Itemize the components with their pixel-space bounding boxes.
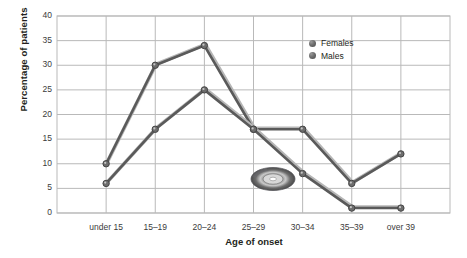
x-tick-label: 20–24 — [193, 222, 217, 232]
legend-label-males: Males — [321, 50, 344, 63]
x-tick-label: under 15 — [89, 222, 123, 232]
y-tick-label: 15 — [26, 134, 52, 143]
y-tick-label: 5 — [26, 183, 52, 192]
legend-item-males: Males — [309, 50, 354, 63]
chart-legend: Females Males — [309, 37, 354, 62]
y-tick-label: 10 — [26, 159, 52, 168]
x-tick-label: 25–29 — [242, 222, 266, 232]
legend-label-females: Females — [321, 37, 354, 50]
legend-item-females: Females — [309, 37, 354, 50]
plot-area — [0, 0, 467, 258]
x-tick-label: 35–39 — [340, 222, 364, 232]
x-axis-title: Age of onset — [57, 236, 451, 247]
x-tick-label: 15–19 — [143, 222, 167, 232]
sphere-marker-icon — [309, 52, 316, 59]
chart-container: 0510152025303540 under 1515–1920–2425–29… — [0, 0, 467, 258]
y-tick-label: 20 — [26, 110, 52, 119]
y-tick-label: 25 — [26, 85, 52, 94]
x-tick-label: over 39 — [387, 222, 415, 232]
y-tick-label: 40 — [26, 11, 52, 20]
sphere-marker-icon — [309, 40, 316, 47]
y-axis-title: Percentage of patients — [18, 0, 29, 125]
y-tick-label: 35 — [26, 36, 52, 45]
x-tick-label: 30–34 — [291, 222, 315, 232]
y-tick-label: 0 — [26, 208, 52, 217]
y-tick-label: 30 — [26, 60, 52, 69]
